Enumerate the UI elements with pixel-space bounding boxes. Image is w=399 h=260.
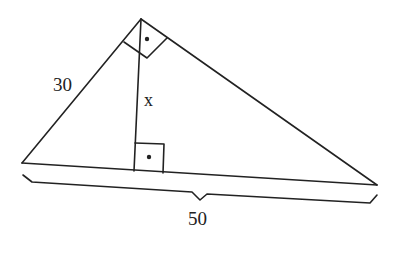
leg-label: 30 (53, 74, 72, 95)
leg-right (141, 19, 377, 185)
hypotenuse-label: 50 (188, 208, 207, 229)
right-angle-dot-apex (145, 37, 149, 41)
triangle-diagram: 30 x 50 (0, 0, 399, 260)
hypotenuse (22, 163, 377, 185)
right-angle-dot-foot (147, 155, 151, 159)
leg-left (22, 19, 141, 163)
brace-under-hypotenuse (23, 175, 377, 203)
right-angle-marker-apex (124, 38, 167, 58)
altitude-label: x (144, 90, 153, 110)
altitude (134, 19, 141, 171)
